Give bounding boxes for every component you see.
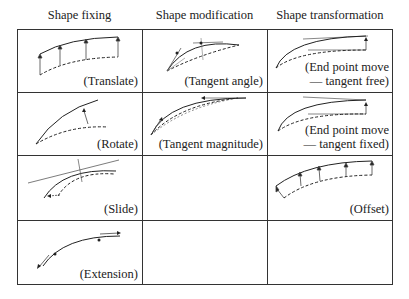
cell-rotate: (Rotate) <box>18 93 142 155</box>
label-end-point-free-2: — tangent free) <box>310 74 389 88</box>
cell-offset: (Offset) <box>268 156 393 220</box>
cell-tangent-angle: (Tangent angle) <box>143 30 267 92</box>
cell-empty <box>143 221 267 285</box>
cell-end-point-free: (End point move — tangent free) <box>268 30 393 92</box>
label-end-point-fixed-1: (End point move <box>305 123 389 137</box>
operations-table: (Translate) (Tangent angle) (End point m… <box>17 29 393 285</box>
cell-extension: (Extension) <box>18 221 142 285</box>
cell-translate: (Translate) <box>18 30 142 92</box>
cell-empty <box>268 221 393 285</box>
label-rotate: (Rotate) <box>97 137 138 151</box>
label-end-point-fixed-2: — tangent fixed) <box>304 137 389 151</box>
label-extension: (Extension) <box>80 267 138 281</box>
label-offset: (Offset) <box>350 202 389 216</box>
label-translate: (Translate) <box>84 74 138 88</box>
label-end-point-free-1: (End point move <box>305 60 389 74</box>
label-tangent-magnitude: (Tangent magnitude) <box>159 137 263 151</box>
cell-empty <box>143 156 267 220</box>
cell-slide: (Slide) <box>18 156 142 220</box>
cell-tangent-magnitude: (Tangent magnitude) <box>143 93 267 155</box>
header-shape-transformation: Shape transformation <box>267 8 393 23</box>
header-shape-modification: Shape modification <box>142 8 267 23</box>
label-tangent-angle: (Tangent angle) <box>184 74 263 88</box>
header-shape-fixing: Shape fixing <box>17 8 142 23</box>
cell-end-point-fixed: (End point move — tangent fixed) <box>268 93 393 155</box>
label-slide: (Slide) <box>104 202 138 216</box>
